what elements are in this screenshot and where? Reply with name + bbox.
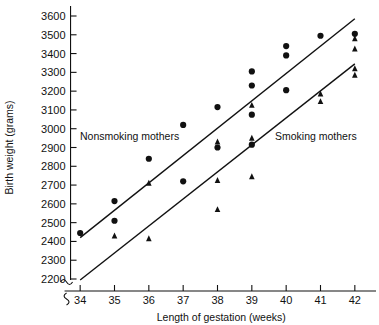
- x-tick-label: 40: [280, 294, 292, 306]
- y-tick-label: 3100: [41, 104, 65, 116]
- y-tick-label: 2400: [41, 235, 65, 247]
- x-axis-title: Length of gestation (weeks): [157, 311, 286, 323]
- x-tick-label: 37: [177, 294, 189, 306]
- y-tick-label: 2600: [41, 198, 65, 210]
- x-tick-label: 41: [314, 294, 326, 306]
- y-tick-label: 3300: [41, 66, 65, 78]
- y-tick-label: 3600: [41, 10, 65, 22]
- y-tick-label: 2300: [41, 254, 65, 266]
- regression-line: [80, 19, 355, 238]
- y-tick-label: 2800: [41, 160, 65, 172]
- y-axis-tick-labels: 2200230024002500260027002800290030003100…: [41, 10, 65, 285]
- data-point-triangle: [318, 91, 324, 97]
- y-tick-label: 3500: [41, 29, 65, 41]
- data-point-circle: [283, 43, 289, 49]
- data-point-circle: [214, 104, 220, 110]
- y-tick-label: 2900: [41, 142, 65, 154]
- chart-canvas: 2200230024002500260027002800290030003100…: [0, 0, 379, 325]
- series-label-smoking: Smoking mothers: [275, 130, 357, 142]
- y-tick-label: 2500: [41, 217, 65, 229]
- data-point-circle: [249, 82, 255, 88]
- y-axis-tick-marks: [71, 16, 77, 279]
- data-point-triangle: [352, 46, 358, 52]
- data-point-triangle: [352, 72, 358, 78]
- data-point-triangle: [318, 98, 324, 104]
- data-point-circle: [77, 230, 83, 236]
- data-point-circle: [146, 156, 152, 162]
- data-point-circle: [249, 112, 255, 118]
- data-point-triangle: [215, 177, 221, 183]
- series-label-nonsmoking: Nonsmoking mothers: [80, 130, 179, 142]
- y-tick-label: 3400: [41, 48, 65, 60]
- data-point-circle: [214, 144, 220, 150]
- y-tick-label: 3000: [41, 123, 65, 135]
- x-tick-label: 42: [349, 294, 361, 306]
- data-point-circle: [283, 87, 289, 93]
- data-point-circle: [249, 68, 255, 74]
- data-point-triangle: [215, 206, 221, 212]
- x-tick-label: 36: [143, 294, 155, 306]
- y-axis-title: Birth weight (grams): [3, 101, 15, 195]
- data-point-triangle: [146, 235, 152, 241]
- data-point-circle: [317, 33, 323, 39]
- y-tick-label: 2200: [41, 273, 65, 285]
- y-tick-label: 2700: [41, 179, 65, 191]
- x-axis-break-icon: [64, 293, 69, 305]
- x-tick-label: 39: [246, 294, 258, 306]
- x-tick-label: 34: [74, 294, 86, 306]
- data-point-circle: [283, 52, 289, 58]
- data-point-circle: [111, 218, 117, 224]
- data-point-circle: [111, 198, 117, 204]
- x-tick-label: 38: [211, 294, 223, 306]
- data-point-triangle: [249, 173, 255, 179]
- x-tick-label: 35: [108, 294, 120, 306]
- data-point-triangle: [112, 232, 118, 238]
- scatter-plot-figure: 2200230024002500260027002800290030003100…: [0, 0, 379, 325]
- data-point-circle: [180, 122, 186, 128]
- x-axis-tick-marks: [80, 285, 355, 291]
- x-axis-tick-labels: 343536373839404142: [74, 294, 361, 306]
- regression-line: [80, 64, 355, 280]
- y-tick-label: 3200: [41, 85, 65, 97]
- data-point-circle: [180, 178, 186, 184]
- data-point-triangle: [215, 139, 221, 145]
- data-point-triangle: [249, 135, 255, 141]
- data-point-circle: [249, 142, 255, 148]
